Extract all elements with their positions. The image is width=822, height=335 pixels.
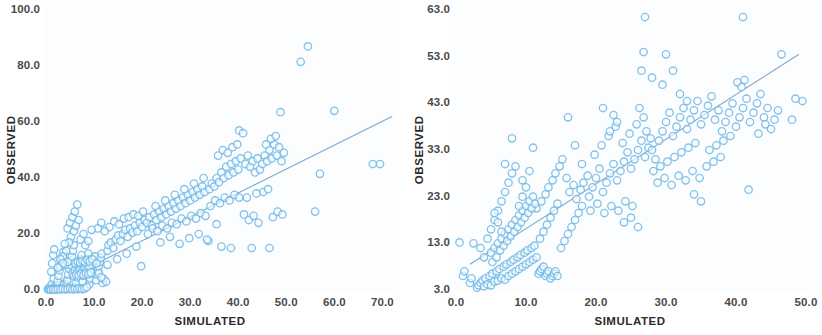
plot-canvas-right (410, 0, 817, 335)
data-point (760, 114, 767, 121)
data-point (774, 107, 781, 114)
data-point (654, 179, 661, 186)
data-point (104, 261, 111, 268)
y-tick-label: 0.0 (0, 284, 40, 296)
data-point (687, 116, 694, 123)
data-point (648, 74, 655, 81)
data-point (652, 156, 659, 163)
data-point (678, 149, 685, 156)
data-point (568, 223, 575, 230)
data-point (531, 242, 538, 249)
data-point (680, 104, 687, 111)
data-point (722, 118, 729, 125)
data-point (571, 142, 578, 149)
data-point (564, 114, 571, 121)
data-point (659, 81, 666, 88)
data-point (533, 254, 540, 261)
data-point (538, 198, 545, 205)
data-point (696, 174, 703, 181)
x-tick-label: 0.0 (434, 297, 478, 309)
data-point (589, 184, 596, 191)
y-tick-label: 23.0 (410, 191, 450, 203)
data-point (559, 156, 566, 163)
data-point (549, 177, 556, 184)
y-tick-label: 13.0 (410, 237, 450, 249)
data-point (694, 97, 701, 104)
x-tick-label: 20.0 (120, 297, 164, 309)
data-point (675, 172, 682, 179)
data-point (152, 202, 159, 209)
data-point (227, 244, 234, 251)
data-point (542, 191, 549, 198)
data-point (369, 160, 376, 167)
data-point (376, 160, 383, 167)
data-point (608, 202, 615, 209)
data-point (596, 165, 603, 172)
data-point (594, 200, 601, 207)
data-point (213, 221, 220, 228)
data-point (743, 95, 750, 102)
data-point (673, 123, 680, 130)
data-point (792, 95, 799, 102)
x-tick-label: 10.0 (72, 297, 116, 309)
x-tick-label: 70.0 (360, 297, 404, 309)
data-point (669, 67, 676, 74)
data-point (461, 268, 468, 275)
data-point (117, 237, 124, 244)
data-point (713, 142, 720, 149)
data-point (617, 167, 624, 174)
data-point (166, 233, 173, 240)
x-axis-title-right: SIMULATED (575, 316, 685, 328)
data-point (750, 109, 757, 116)
data-point (529, 193, 536, 200)
data-point (690, 191, 697, 198)
data-point (638, 67, 645, 74)
data-point (619, 139, 626, 146)
data-point (682, 177, 689, 184)
data-point (456, 239, 463, 246)
data-point (570, 181, 577, 188)
data-point (98, 274, 105, 281)
x-axis-title-left: SIMULATED (155, 316, 265, 328)
chart-panel-left: OBSERVED SIMULATED 0.020.040.060.080.010… (0, 0, 410, 335)
data-point (61, 240, 68, 247)
y-tick-label: 63.0 (410, 4, 450, 16)
data-point (264, 186, 271, 193)
data-point (767, 125, 774, 132)
data-point (181, 186, 188, 193)
data-point (515, 202, 522, 209)
data-point (280, 149, 287, 156)
data-point (50, 246, 57, 253)
data-point (689, 167, 696, 174)
data-point (701, 111, 708, 118)
y-tick-label: 43.0 (410, 97, 450, 109)
data-point (592, 174, 599, 181)
data-point (799, 97, 806, 104)
data-point (715, 107, 722, 114)
data-point (620, 219, 627, 226)
data-point (550, 207, 557, 214)
data-point (554, 200, 561, 207)
data-point (529, 144, 536, 151)
data-point (190, 180, 197, 187)
data-point (494, 219, 501, 226)
data-point (235, 194, 242, 201)
data-point (218, 243, 225, 250)
data-point (557, 244, 564, 251)
data-point (739, 13, 746, 20)
data-point (668, 181, 675, 188)
data-point (641, 13, 648, 20)
data-point (622, 198, 629, 205)
data-point (484, 235, 491, 242)
x-tick-label: 50.0 (784, 297, 822, 309)
data-point (87, 269, 94, 276)
data-point (610, 160, 617, 167)
data-point (262, 141, 269, 148)
data-point (703, 163, 710, 170)
data-point (501, 160, 508, 167)
data-point (123, 250, 130, 257)
data-point (564, 230, 571, 237)
data-point (71, 208, 78, 215)
data-point (739, 104, 746, 111)
data-point (692, 139, 699, 146)
